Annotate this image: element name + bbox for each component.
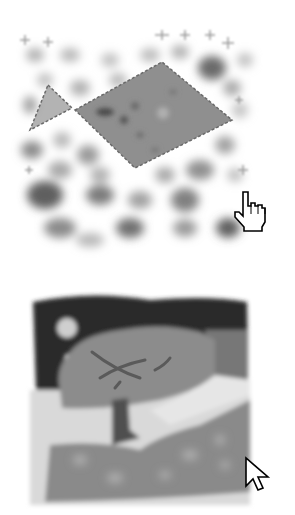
blob-map-panel[interactable] <box>0 0 295 260</box>
moon <box>57 318 77 338</box>
blob-map-canvas[interactable] <box>0 0 295 260</box>
painted-scene-panel[interactable] <box>0 260 295 515</box>
painted-scene-canvas[interactable] <box>0 260 295 515</box>
